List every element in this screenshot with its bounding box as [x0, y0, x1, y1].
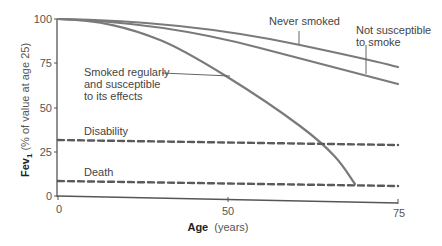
y-tick-label: 25	[40, 146, 52, 158]
line-disability	[58, 140, 398, 145]
y-tick-label: 100	[34, 13, 52, 25]
label-death: Death	[84, 166, 113, 178]
y-tick-label: 50	[40, 102, 52, 114]
label-disability: Disability	[84, 125, 129, 137]
line-never-smoked	[58, 19, 398, 67]
x-tick-labels: 0 50 75	[56, 203, 405, 219]
label-smoked-2: and susceptible	[84, 78, 160, 90]
x-tick-label: 50	[222, 205, 234, 217]
label-not-susceptible-2: to smoke	[356, 36, 401, 48]
line-death	[58, 181, 398, 186]
x-tick-label: 0	[56, 203, 62, 215]
series	[58, 19, 398, 186]
label-never-smoked: Never smoked	[269, 15, 340, 27]
y-tick-label: 75	[40, 57, 52, 69]
y-tick-label: 0	[46, 190, 52, 202]
label-smoked-1: Smoked regularly	[84, 66, 170, 78]
y-axis-title: Fev1 (% of value at age 25)	[19, 43, 34, 177]
y-tick-labels: 100 75 50 25 0	[34, 13, 52, 202]
chart: 100 75 50 25 0 0 50 75 Age (years) Fev1 …	[0, 0, 442, 246]
label-not-susceptible-1: Not susceptible	[356, 24, 431, 36]
x-tick-label: 75	[393, 207, 405, 219]
x-axis-title: Age (years)	[187, 221, 248, 233]
label-smoked-3: to its effects	[84, 90, 143, 102]
